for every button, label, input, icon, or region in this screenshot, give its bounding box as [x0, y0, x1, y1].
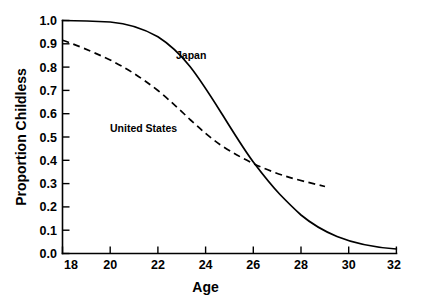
- y-tick-label: 0.5: [40, 131, 57, 145]
- x-tick-marks: [63, 247, 397, 254]
- x-tick-labels: 18 20 22 24 26 28 30 32: [64, 258, 401, 272]
- x-tick-label: 26: [246, 258, 260, 272]
- y-tick-label: 0.0: [40, 247, 57, 261]
- series-line-united-states: [63, 40, 326, 186]
- y-tick-label: 0.3: [40, 177, 57, 191]
- series-annotation-japan: Japan: [176, 49, 206, 61]
- y-tick-label: 0.4: [40, 154, 57, 168]
- y-tick-label: 0.9: [40, 37, 57, 51]
- y-tick-labels: 1.0 0.9 0.8 0.7 0.6 0.5 0.4 0.3 0.2 0.1 …: [40, 14, 57, 261]
- x-axis-title: Age: [192, 279, 219, 295]
- series-annotation-united-states: United States: [110, 122, 177, 134]
- y-tick-label: 0.2: [40, 200, 57, 214]
- y-tick-label: 0.8: [40, 61, 57, 75]
- line-chart: 1.0 0.9 0.8 0.7 0.6 0.5 0.4 0.3 0.2 0.1 …: [0, 0, 421, 308]
- y-tick-label: 0.6: [40, 107, 57, 121]
- y-tick-marks: [63, 21, 70, 254]
- x-tick-label: 22: [151, 258, 165, 272]
- x-tick-label: 18: [64, 258, 78, 272]
- x-tick-label: 28: [294, 258, 308, 272]
- x-tick-label: 20: [103, 258, 117, 272]
- y-tick-label: 0.1: [40, 224, 57, 238]
- x-tick-label: 32: [387, 258, 401, 272]
- y-tick-label: 0.7: [40, 84, 57, 98]
- chart-figure: 1.0 0.9 0.8 0.7 0.6 0.5 0.4 0.3 0.2 0.1 …: [0, 0, 421, 308]
- x-tick-label: 30: [342, 258, 356, 272]
- series-line-japan: [63, 21, 397, 250]
- y-axis-title: Proportion Childless: [13, 68, 29, 206]
- y-tick-label: 1.0: [40, 14, 57, 28]
- axes: [63, 21, 397, 254]
- x-tick-label: 24: [199, 258, 213, 272]
